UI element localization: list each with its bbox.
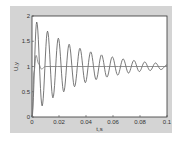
line-chart: 00.020.040.060.080.100.511.52t,sU,y <box>0 0 182 142</box>
x-tick-label: 0.08 <box>134 119 146 125</box>
y-axis-label: U,y <box>13 62 19 71</box>
x-tick-label: 0.04 <box>80 119 92 125</box>
y-tick-label: 1 <box>27 64 31 70</box>
y-tick-label: 0.5 <box>22 89 31 95</box>
x-axis-label: t,s <box>96 126 102 132</box>
x-tick-label: 0.1 <box>163 119 172 125</box>
x-tick-label: 0 <box>30 119 34 125</box>
x-tick-label: 0.02 <box>53 119 65 125</box>
y-tick-label: 1.5 <box>22 38 31 44</box>
y-tick-label: 2 <box>27 13 31 19</box>
x-tick-label: 0.06 <box>107 119 119 125</box>
